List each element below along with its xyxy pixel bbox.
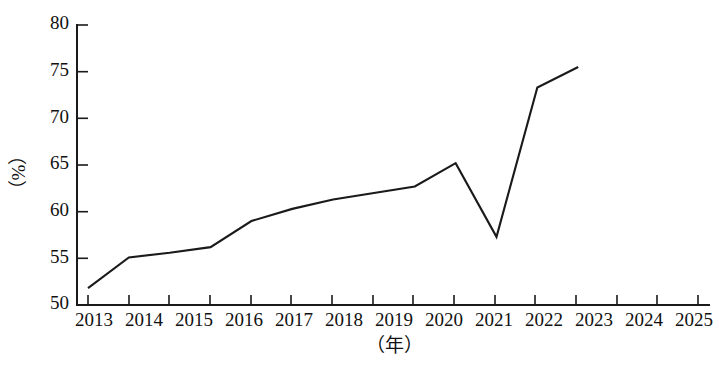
x-tick-label: 2015 xyxy=(175,309,213,330)
x-tick-label: 2019 xyxy=(375,309,413,330)
x-axis-ticks xyxy=(88,295,698,305)
y-tick-label: 50 xyxy=(50,292,69,313)
y-axis-ticks xyxy=(77,25,88,258)
y-tick-label: 75 xyxy=(50,59,69,80)
x-tick-label: 2024 xyxy=(625,309,664,330)
y-axis-label-container: （%） xyxy=(2,124,32,220)
data-series-line xyxy=(88,67,578,288)
x-tick-label: 2025 xyxy=(675,309,713,330)
y-tick-label: 60 xyxy=(50,199,69,220)
x-tick-label: 2018 xyxy=(325,309,363,330)
chart-plot-area: 80 75 70 65 60 55 50 xyxy=(0,0,719,368)
y-tick-label: 65 xyxy=(50,152,69,173)
y-tick-label: 80 xyxy=(50,12,69,33)
chart-axes xyxy=(77,25,709,305)
x-axis-tick-labels: 2013 2014 2015 2016 2017 2018 2019 2020 … xyxy=(75,309,713,330)
y-axis-label: （%） xyxy=(4,145,31,199)
y-tick-label: 70 xyxy=(50,106,69,127)
x-tick-label: 2014 xyxy=(125,309,164,330)
y-axis-tick-labels: 80 75 70 65 60 55 50 xyxy=(50,12,69,313)
x-tick-label: 2022 xyxy=(525,309,563,330)
x-tick-label: 2023 xyxy=(575,309,613,330)
x-tick-label: 2020 xyxy=(425,309,463,330)
x-tick-label: 2016 xyxy=(225,309,263,330)
line-chart: 80 75 70 65 60 55 50 xyxy=(0,0,719,368)
x-tick-label: 2021 xyxy=(475,309,513,330)
x-tick-label: 2017 xyxy=(275,309,313,330)
x-tick-label: 2013 xyxy=(75,309,113,330)
y-tick-label: 55 xyxy=(50,246,69,267)
x-axis-label: （年） xyxy=(366,335,423,356)
